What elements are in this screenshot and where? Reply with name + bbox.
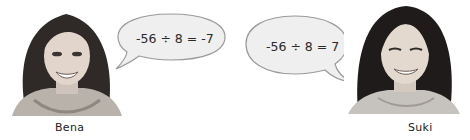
- suki-photo: [344, 2, 464, 114]
- bena-equation: -56 ÷ 8 = -7: [136, 31, 214, 46]
- bena-name-label: Bena: [55, 121, 84, 134]
- bena-photo: [4, 4, 128, 116]
- suki-equation: -56 ÷ 8 = 7: [266, 39, 339, 54]
- bena-speech-bubble: -56 ÷ 8 = -7: [113, 12, 228, 72]
- suki-name-label: Suki: [408, 121, 433, 134]
- suki-speech-bubble: -56 ÷ 8 = 7: [243, 14, 355, 84]
